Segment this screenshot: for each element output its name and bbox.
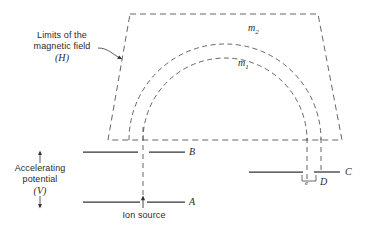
magnetic-field-limits-label: Limits of the magnetic field (H): [22, 30, 102, 64]
accel-arrow-down-head: [38, 204, 42, 209]
trajectory-m1-subscript: 1: [245, 63, 249, 71]
trajectory-label-m2: m2: [248, 22, 259, 36]
slit-width-e-label: e: [305, 179, 308, 187]
ion-source-label: Ion source: [108, 210, 180, 221]
magnetic-field-region: [108, 14, 342, 140]
ion-source-arrow-head: [141, 196, 145, 201]
accelerating-potential-line2: potential: [23, 174, 58, 184]
magnetic-field-symbol: (H): [55, 52, 69, 63]
mass-spectrometer-figure: Limits of the magnetic field (H) Acceler…: [0, 0, 370, 235]
trajectory-m2-subscript: 2: [255, 28, 259, 36]
slit-d-label: D: [320, 176, 327, 187]
accelerating-potential-line1: Accelerating: [15, 163, 66, 173]
magnetic-field-limits-line2: magnetic field: [34, 41, 91, 51]
accelerating-potential-symbol: (V): [33, 185, 46, 196]
accelerating-potential-label: Accelerating potential (V): [5, 163, 75, 197]
plate-a-label: A: [189, 196, 195, 207]
accel-arrow-up-head: [38, 151, 42, 156]
magnetic-field-limits-line1: Limits of the: [37, 30, 87, 40]
trajectory-label-m1: m1: [238, 57, 249, 71]
field-label-leader-arrowhead: [117, 55, 122, 59]
trajectory-arc-m1: [143, 58, 307, 140]
plate-c-label: C: [345, 166, 352, 177]
plate-b-label: B: [189, 146, 195, 157]
